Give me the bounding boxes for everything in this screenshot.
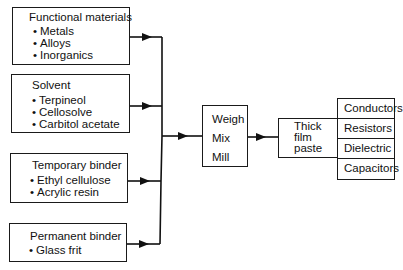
- process-step: Mix: [212, 132, 230, 145]
- output-resistors: Resistors: [338, 119, 394, 139]
- input-title: Temporary binder: [32, 159, 121, 172]
- input-title: Permanent binder: [30, 230, 121, 243]
- input-item: Glass frit: [29, 244, 81, 257]
- input-title: Solvent: [32, 79, 70, 92]
- output-stack: Conductors Resistors Dielectric Capacito…: [337, 98, 395, 180]
- output-conductors: Conductors: [338, 99, 394, 119]
- output-capacitors: Capacitors: [338, 159, 394, 179]
- input-box-solvent: Solvent Terpineol Cellosolve Carbitol ac…: [11, 74, 130, 133]
- input-box-functional-materials: Functional materials Metals Alloys Inorg…: [12, 7, 130, 65]
- input-item: Carbitol acetate: [32, 118, 120, 131]
- process-box: Weigh Mix Mill: [202, 105, 248, 167]
- input-title: Functional materials: [29, 11, 132, 24]
- process-step: Mill: [212, 151, 229, 164]
- product-box: Thick film paste: [278, 118, 339, 158]
- process-step: Weigh: [212, 113, 244, 126]
- input-box-temporary-binder: Temporary binder Ethyl cellulose Acrylic…: [10, 153, 128, 203]
- input-item: Inorganics: [33, 49, 93, 62]
- input-item: Acrylic resin: [30, 186, 99, 199]
- product-line: paste: [294, 142, 322, 155]
- output-dielectric: Dielectric: [338, 139, 394, 159]
- input-box-permanent-binder: Permanent binder Glass frit: [9, 223, 127, 262]
